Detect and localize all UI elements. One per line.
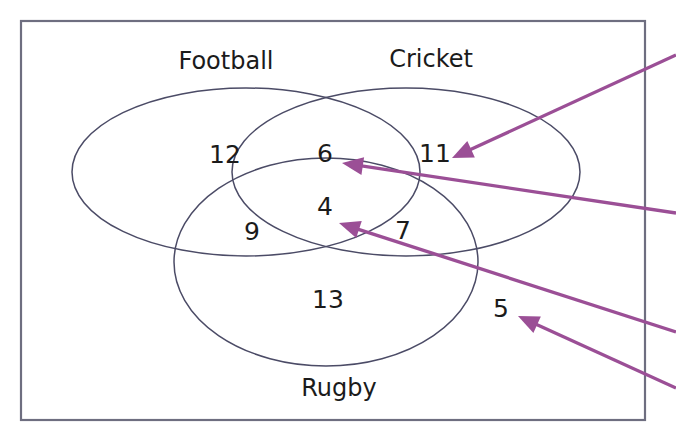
arrow-to-outside-all-shaft bbox=[534, 323, 676, 388]
region-value-football-cricket-only: 6 bbox=[317, 139, 333, 168]
arrow-to-football-cricket-shaft bbox=[360, 166, 676, 213]
set-label-rugby: Rugby bbox=[301, 374, 376, 402]
region-value-football-rugby-only: 9 bbox=[244, 217, 260, 246]
set-ellipse-rugby bbox=[174, 158, 478, 366]
set-label-cricket: Cricket bbox=[389, 45, 473, 73]
venn-diagram-page: FootballCricketRugby 12611947135 bbox=[0, 0, 676, 447]
set-ellipses bbox=[72, 88, 580, 366]
set-labels: FootballCricketRugby bbox=[178, 45, 472, 402]
arrow-to-all-three-shaft bbox=[356, 229, 676, 332]
region-value-cricket-only: 11 bbox=[419, 139, 451, 168]
region-value-rugby-only: 13 bbox=[312, 285, 344, 314]
set-label-football: Football bbox=[178, 47, 273, 75]
venn-diagram-canvas: FootballCricketRugby 12611947135 bbox=[0, 0, 676, 447]
region-value-football-only: 12 bbox=[209, 140, 241, 169]
annotation-arrows bbox=[339, 55, 676, 388]
region-value-outside-all: 5 bbox=[493, 294, 509, 323]
universal-set-rectangle bbox=[21, 21, 645, 420]
region-value-all-three: 4 bbox=[317, 192, 333, 221]
